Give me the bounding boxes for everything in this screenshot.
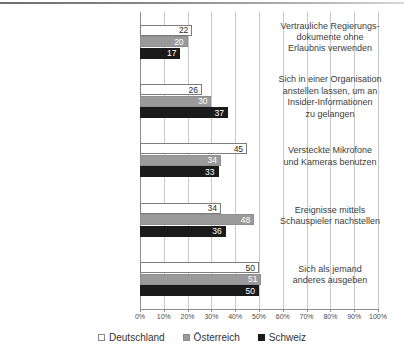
category-label-line: dokumente ohne: [296, 32, 363, 42]
category-label-line: Versteckte Mikrofone: [288, 145, 372, 155]
legend-swatch-at: [183, 334, 190, 341]
category-label: Sich als jemandanderes ausgeben: [264, 264, 396, 287]
x-tick-label: 60%: [276, 313, 290, 320]
bar-value-label: 22: [179, 26, 188, 35]
bar-at[interactable]: 20: [140, 36, 188, 47]
bar-value-label: 33: [205, 167, 214, 176]
bar-value-label: 30: [198, 97, 207, 106]
category-label-line: Insider-Informationen: [287, 97, 372, 107]
legend-item-ch[interactable]: Schweiz: [258, 332, 306, 343]
legend-label: Österreich: [194, 332, 240, 343]
x-tick-label: 40%: [228, 313, 242, 320]
bar-at[interactable]: 51: [140, 274, 261, 285]
legend-swatch-ch: [258, 334, 265, 341]
bar-value-label: 34: [207, 204, 216, 213]
category-label-line: Schauspieler nachstellen: [280, 216, 380, 226]
x-tick-100%: [378, 309, 379, 312]
chart-legend: DeutschlandÖsterreichSchweiz: [0, 332, 404, 343]
x-tick-60%: [283, 309, 284, 312]
x-tick-label: 80%: [323, 313, 337, 320]
category-label: Vertrauliche Regierungs-dokumente ohneEr…: [264, 21, 396, 55]
bar-value-label: 17: [167, 49, 176, 58]
bar-at[interactable]: 30: [140, 96, 211, 107]
bar-value-label: 48: [241, 215, 250, 224]
bar-de[interactable]: 45: [140, 143, 247, 154]
bar-ch[interactable]: 33: [140, 166, 219, 177]
bar-ch[interactable]: 17: [140, 48, 180, 59]
x-tick-label: 100%: [369, 313, 387, 320]
x-tick-label: 30%: [204, 313, 218, 320]
bar-value-label: 34: [207, 156, 216, 165]
bar-de[interactable]: 26: [140, 84, 202, 95]
bar-value-label: 45: [234, 144, 243, 153]
bar-de[interactable]: 50: [140, 262, 259, 273]
bar-value-label: 26: [188, 85, 197, 94]
x-tick-label: 20%: [181, 313, 195, 320]
bar-de[interactable]: 34: [140, 203, 221, 214]
category-label: Sich in einer Organisationanstellen lass…: [264, 74, 396, 120]
x-tick-50%: [259, 309, 260, 312]
bar-at[interactable]: 48: [140, 214, 254, 225]
legend-swatch-de: [98, 334, 105, 341]
bar-value-label: 50: [246, 263, 255, 272]
category-label-line: Sich als jemand: [298, 264, 362, 274]
x-tick-10%: [164, 309, 165, 312]
category-label-line: Erlaubnis verwenden: [288, 43, 372, 53]
bar-value-label: 37: [215, 108, 224, 117]
category-label: Versteckte Mikrofoneund Kameras benutzen: [264, 145, 396, 168]
category-label-line: Ereignisse mittels: [295, 205, 366, 215]
category-label-line: anstellen lassen, um an: [283, 86, 378, 96]
legend-item-de[interactable]: Deutschland: [98, 332, 165, 343]
x-tick-70%: [307, 309, 308, 312]
bar-ch[interactable]: 36: [140, 226, 226, 237]
x-tick-30%: [211, 309, 212, 312]
x-tick-40%: [235, 309, 236, 312]
x-tick-label: 0%: [135, 313, 145, 320]
category-label-line: zu gelangen: [305, 109, 354, 119]
legend-label: Schweiz: [269, 332, 306, 343]
bar-value-label: 36: [212, 227, 221, 236]
legend-item-at[interactable]: Österreich: [183, 332, 240, 343]
category-label-line: Sich in einer Organisation: [278, 74, 381, 84]
bar-value-label: 20: [174, 37, 183, 46]
x-tick-80%: [330, 309, 331, 312]
bar-ch[interactable]: 37: [140, 107, 228, 118]
bar-de[interactable]: 22: [140, 25, 192, 36]
category-label-line: anderes ausgeben: [293, 275, 368, 285]
bar-ch[interactable]: 50: [140, 285, 259, 296]
x-tick-0%: [140, 309, 141, 312]
x-tick-label: 90%: [347, 313, 361, 320]
x-tick-20%: [188, 309, 189, 312]
category-label-line: Vertrauliche Regierungs-: [280, 21, 379, 31]
bar-value-label: 51: [248, 275, 257, 284]
x-tick-label: 50%: [252, 313, 266, 320]
category-label-line: und Kameras benutzen: [283, 157, 376, 167]
x-tick-label: 70%: [300, 313, 314, 320]
bar-value-label: 50: [246, 286, 255, 295]
legend-label: Deutschland: [109, 332, 165, 343]
grouped-bar-chart: 222017263037453433344836505150 Deutschla…: [0, 0, 404, 359]
x-tick-90%: [354, 309, 355, 312]
bar-at[interactable]: 34: [140, 155, 221, 166]
x-tick-label: 10%: [157, 313, 171, 320]
category-label: Ereignisse mittelsSchauspieler nachstell…: [264, 205, 396, 228]
